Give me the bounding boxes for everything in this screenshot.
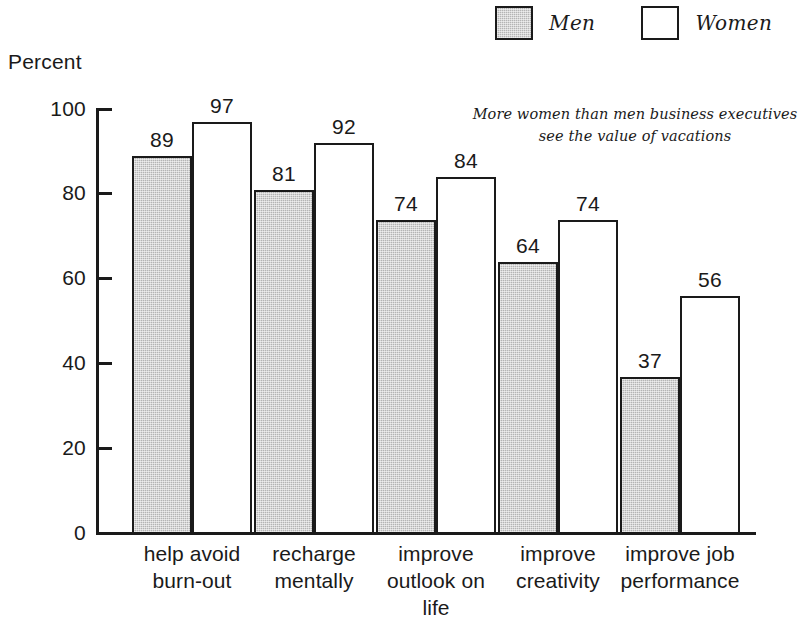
bar-men-3 — [498, 262, 558, 534]
bar-value-women-4: 56 — [680, 268, 740, 292]
bar-value-women-1: 92 — [314, 115, 374, 139]
category-label-2-line3: life — [346, 594, 526, 620]
y-tick-40 — [99, 362, 112, 365]
y-tick-label-40: 40 — [10, 351, 86, 375]
category-label-4-line2: performance — [590, 567, 770, 594]
bar-value-women-2: 84 — [436, 149, 496, 173]
bar-women-2 — [436, 177, 496, 534]
bar-men-1 — [254, 190, 314, 534]
chart-annotation: More women than men business executives … — [470, 103, 800, 147]
legend-swatch-women — [641, 6, 679, 40]
bar-men-0 — [132, 156, 192, 534]
bar-value-men-1: 81 — [254, 162, 314, 186]
category-label-4-line1: improve job — [590, 540, 770, 567]
legend-label-women: Women — [695, 11, 772, 35]
category-label-4: improve job performance — [590, 540, 770, 594]
y-tick-label-100: 100 — [10, 97, 86, 121]
y-tick-label-20: 20 — [10, 436, 86, 460]
y-tick-100 — [99, 108, 112, 111]
bar-men-4 — [620, 377, 680, 534]
bar-value-men-4: 37 — [620, 349, 680, 373]
bar-value-men-3: 64 — [498, 234, 558, 258]
bar-women-3 — [558, 220, 618, 534]
bar-value-men-0: 89 — [132, 128, 192, 152]
legend-item-women: Women — [641, 6, 772, 40]
y-tick-60 — [99, 277, 112, 280]
chart-legend: Men Women — [495, 6, 772, 40]
bar-value-women-0: 97 — [192, 94, 252, 118]
bar-chart: Men Women More women than men business e… — [0, 0, 800, 620]
y-axis-title: Percent — [8, 50, 82, 74]
annotation-line-2: see the value of vacations — [470, 125, 800, 147]
bar-value-women-3: 74 — [558, 192, 618, 216]
y-axis-line — [96, 108, 99, 535]
bar-women-1 — [314, 143, 374, 534]
bar-value-men-2: 74 — [376, 192, 436, 216]
y-tick-80 — [99, 192, 112, 195]
y-tick-0 — [99, 532, 112, 535]
legend-item-men: Men — [495, 6, 595, 40]
legend-label-men: Men — [549, 11, 595, 35]
annotation-line-1: More women than men business executives — [470, 103, 800, 125]
y-tick-label-60: 60 — [10, 266, 86, 290]
y-tick-label-0: 0 — [10, 521, 86, 545]
bar-women-0 — [192, 122, 252, 534]
bar-women-4 — [680, 296, 740, 534]
y-tick-20 — [99, 447, 112, 450]
bar-men-2 — [376, 220, 436, 534]
legend-swatch-men — [495, 6, 533, 40]
y-tick-label-80: 80 — [10, 181, 86, 205]
